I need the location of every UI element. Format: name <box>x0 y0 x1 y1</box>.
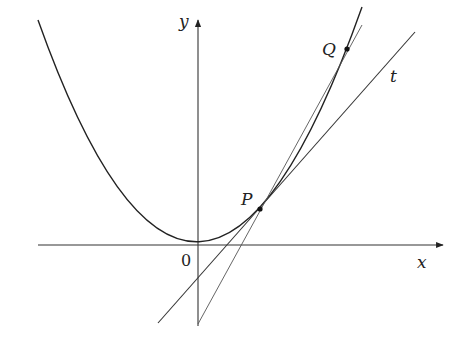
point-q-marker <box>344 46 349 51</box>
x-axis-label: x <box>417 252 427 272</box>
secant-line-pq <box>198 25 362 324</box>
y-axis-label: y <box>178 11 189 31</box>
point-q-label: Q <box>322 39 336 59</box>
point-p-marker <box>257 206 262 211</box>
parabola-curve <box>38 7 362 242</box>
origin-label: 0 <box>181 251 191 270</box>
diagram-canvas: y x 0 P Q t <box>0 0 458 349</box>
tangent-label-t: t <box>390 66 397 86</box>
point-p-label: P <box>240 189 253 209</box>
tangent-line-t <box>158 32 415 323</box>
